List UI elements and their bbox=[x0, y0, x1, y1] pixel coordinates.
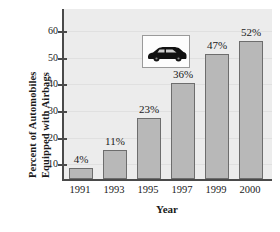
y-axis-line bbox=[62, 9, 64, 181]
bar-1997[interactable] bbox=[171, 83, 195, 179]
x-axis-line bbox=[62, 179, 272, 181]
y-tick-label-50: 50 bbox=[48, 53, 58, 63]
y-tick-mark-50 bbox=[58, 58, 67, 60]
plot-area: 4% 11% 23% 36% 47% bbox=[62, 9, 272, 181]
y-tick-mark-60 bbox=[58, 31, 67, 33]
bar-chart-figure: Percent of Automobiles Equipped with Air… bbox=[0, 0, 280, 232]
y-tick-mark-30 bbox=[58, 111, 67, 113]
y-axis-tick-labels: 60 50 40 30 20 10 bbox=[38, 9, 58, 181]
x-tick-label-1999: 1999 bbox=[198, 184, 234, 196]
x-tick-label-1995: 1995 bbox=[130, 184, 166, 196]
y-tick-mark-10 bbox=[58, 164, 67, 166]
y-axis-title: Percent of Automobiles Equipped with Air… bbox=[0, 0, 34, 182]
bar-slot-1991: 4% bbox=[64, 9, 98, 179]
car-inset-box bbox=[142, 35, 190, 68]
x-tick-label-1991: 1991 bbox=[62, 184, 98, 196]
bar-value-1997: 36% bbox=[166, 69, 200, 80]
bar-value-1999: 47% bbox=[200, 40, 234, 51]
bar-1995[interactable] bbox=[137, 118, 161, 179]
bar-2000[interactable] bbox=[239, 41, 263, 179]
bar-value-1991: 4% bbox=[64, 154, 98, 165]
bar-value-2000: 52% bbox=[234, 27, 268, 38]
cropped-title-fragment bbox=[62, 0, 272, 9]
y-axis-title-line-1: Percent of Automobiles bbox=[27, 72, 38, 178]
bar-slot-2000: 52% bbox=[234, 9, 268, 179]
bar-1993[interactable] bbox=[103, 150, 127, 179]
y-tick-label-30: 30 bbox=[48, 106, 58, 116]
y-tick-mark-40 bbox=[58, 84, 67, 86]
y-tick-label-40: 40 bbox=[48, 79, 58, 89]
x-tick-label-2000: 2000 bbox=[232, 184, 268, 196]
bar-slot-1993: 11% bbox=[98, 9, 132, 179]
bar-1999[interactable] bbox=[205, 54, 229, 179]
y-tick-label-20: 20 bbox=[48, 133, 58, 143]
x-tick-label-1997: 1997 bbox=[164, 184, 200, 196]
x-tick-label-1993: 1993 bbox=[96, 184, 132, 196]
y-tick-label-10: 10 bbox=[48, 159, 58, 169]
y-tick-label-60: 60 bbox=[48, 26, 58, 36]
car-icon bbox=[146, 42, 188, 63]
bar-value-1995: 23% bbox=[132, 104, 166, 115]
x-axis-tick-labels: 1991 1993 1995 1997 1999 2000 bbox=[62, 184, 272, 198]
x-axis-title: Year bbox=[62, 203, 272, 215]
bar-slot-1999: 47% bbox=[200, 9, 234, 179]
y-tick-mark-20 bbox=[58, 138, 67, 140]
bar-1991[interactable] bbox=[69, 168, 93, 179]
bar-value-1993: 11% bbox=[98, 136, 132, 147]
